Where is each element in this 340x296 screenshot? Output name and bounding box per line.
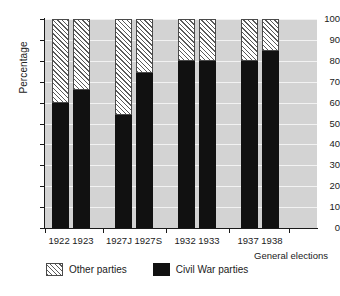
legend-swatch-civil-war-parties-icon — [153, 263, 170, 276]
bar-segment-civil-war-parties — [178, 61, 195, 228]
bar-1923 — [73, 19, 90, 228]
x-axis-title: General elections — [254, 250, 328, 261]
legend-label-other-parties: Other parties — [69, 264, 127, 275]
bar-segment-civil-war-parties — [241, 61, 258, 228]
bar-segment-other-parties — [262, 19, 279, 51]
bar-segment-civil-war-parties — [199, 61, 216, 228]
legend-label-civil-war-parties: Civil War parties — [176, 264, 248, 275]
bar-segment-other-parties — [178, 19, 195, 61]
bar-segment-civil-war-parties — [262, 51, 279, 228]
x-tick-label: 1937 — [238, 235, 259, 246]
bar-segment-other-parties — [241, 19, 258, 61]
x-tick-label-group: 1927J 1927S — [106, 235, 162, 246]
legend-item-civil-war-parties: Civil War parties — [153, 263, 248, 276]
y-tick-label: 50 — [306, 119, 340, 128]
y-tick-label: 100 — [306, 14, 340, 23]
chart-legend: Other parties Civil War parties — [46, 263, 248, 276]
x-tick-mark — [229, 229, 230, 233]
bar-1933 — [199, 19, 216, 228]
y-tick-label: 60 — [306, 98, 340, 107]
bar-segment-civil-war-parties — [52, 103, 69, 228]
bar-segment-civil-war-parties — [73, 90, 90, 228]
x-tick-label: 1922 — [49, 235, 70, 246]
x-tick-label-group: 1922 1923 — [49, 235, 94, 246]
x-tick-label-group: 1932 1933 — [175, 235, 220, 246]
y-tick-label: 90 — [306, 35, 340, 44]
x-tick-label: 1927S — [135, 235, 162, 246]
bar-segment-other-parties — [199, 19, 216, 61]
bar-1938 — [262, 19, 279, 228]
y-tick-label: 30 — [306, 160, 340, 169]
x-tick-mark — [45, 229, 46, 233]
x-tick-label: 1933 — [198, 235, 219, 246]
y-axis-line — [44, 18, 45, 229]
x-tick-label: 1923 — [72, 235, 93, 246]
y-axis-title: Percentage — [18, 0, 29, 138]
bar-segment-other-parties — [73, 19, 90, 90]
y-tick-label: 70 — [306, 77, 340, 86]
x-tick-label: 1927J — [106, 235, 132, 246]
x-axis-line — [44, 228, 318, 229]
bar-1922 — [52, 19, 69, 228]
bar-segment-civil-war-parties — [136, 73, 153, 228]
bar-segment-other-parties — [136, 19, 153, 73]
y-tick-label: 10 — [306, 202, 340, 211]
bar-1932 — [178, 19, 195, 228]
bar-1927J — [115, 19, 132, 228]
x-tick-mark — [166, 229, 167, 233]
bar-segment-other-parties — [52, 19, 69, 103]
y-tick-label: 40 — [306, 139, 340, 148]
bar-segment-civil-war-parties — [115, 115, 132, 228]
bar-segment-other-parties — [115, 19, 132, 115]
x-tick-mark — [103, 229, 104, 233]
chart-figure: Percentage 0102030405060708090100 1922 1… — [0, 0, 340, 296]
y-tick-label: 20 — [306, 181, 340, 190]
x-tick-label-group: 1937 1938 — [238, 235, 283, 246]
x-tick-label: 1932 — [175, 235, 196, 246]
bar-1927S — [136, 19, 153, 228]
x-tick-mark — [289, 229, 290, 233]
legend-swatch-other-parties-icon — [46, 263, 63, 276]
y-tick-label: 80 — [306, 56, 340, 65]
x-tick-label: 1938 — [261, 235, 282, 246]
bar-1937 — [241, 19, 258, 228]
legend-item-other-parties: Other parties — [46, 263, 127, 276]
